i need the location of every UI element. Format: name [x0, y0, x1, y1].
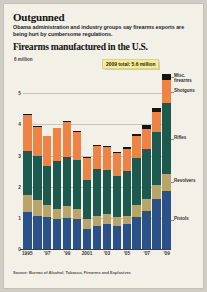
callout-2009-total: 2009 total: 5.6 million	[102, 59, 159, 69]
legend-label-revolvers: Revolvers	[174, 178, 196, 183]
bar-segment-pistols-1998	[53, 219, 62, 249]
bar-segment-revolvers-2001	[83, 219, 92, 229]
bar-segment-rifles-2000	[73, 160, 82, 209]
bar-segment-revolvers-1996	[33, 200, 42, 216]
bar-segment-shotguns-2001	[83, 158, 92, 179]
legend-tick-rifles	[171, 139, 175, 140]
bar-segment-pistols-2000	[73, 219, 82, 249]
bar-segment-shotguns-1997	[43, 136, 52, 166]
bar-segment-shotguns-2006	[132, 136, 141, 158]
x-tick-label-2009: '09	[163, 251, 169, 256]
legend-tick-shotguns	[171, 92, 175, 93]
bar-segment-rifles-2002	[93, 169, 102, 216]
bar-segment-rifles-1998	[53, 161, 62, 209]
bar-segment-pistols-1995	[23, 212, 32, 249]
x-axis-baseline	[20, 249, 171, 250]
bar-segment-revolvers-2008	[152, 185, 161, 198]
bar-segment-shotguns-2004	[113, 153, 122, 176]
x-tick-label-2001: 2001	[82, 251, 93, 256]
bar-2005	[123, 147, 132, 249]
x-tick-label-2003: '03	[104, 251, 110, 256]
bar-segment-pistols-2004	[113, 226, 122, 249]
legend-label-rifles: Rifles	[174, 135, 186, 140]
bar-2006	[132, 134, 141, 249]
bar-segment-pistols-2003	[103, 224, 112, 249]
bar-2004	[113, 152, 122, 249]
infographic-card: Outgunned Obama administration and indus…	[4, 4, 203, 288]
legend-tick-pistols	[171, 220, 175, 221]
bar-segment-rifles-1995	[23, 151, 32, 195]
bar-segment-rifles-2006	[132, 158, 141, 205]
bar-1999	[63, 121, 72, 249]
bar-segment-shotguns-1998	[53, 128, 62, 160]
y-tick-label-2: 2	[18, 184, 21, 189]
x-tick-label-1999: '99	[64, 251, 70, 256]
bar-segment-shotguns-2008	[152, 112, 161, 132]
bar-segment-pistols-1999	[63, 218, 72, 249]
bar-segment-revolvers-1999	[63, 206, 72, 218]
bar-segment-shotguns-1996	[33, 127, 42, 156]
bar-segment-revolvers-2000	[73, 209, 82, 219]
bar-segment-revolvers-1995	[23, 195, 32, 212]
legend-label-misc-firearms: Misc. firearms	[174, 73, 192, 83]
bar-segment-revolvers-2004	[113, 217, 122, 226]
bar-2001	[83, 157, 92, 249]
bar-segment-shotguns-1995	[23, 115, 32, 151]
bar-series-group	[23, 62, 171, 249]
bar-2009	[162, 74, 171, 249]
bar-segment-revolvers-2005	[123, 216, 132, 224]
bar-segment-pistols-2007	[142, 211, 151, 249]
source-note: Source: Bureau of Alcohol, Tobacco, Fire…	[13, 270, 131, 275]
bar-2000	[73, 131, 82, 249]
bar-segment-rifles-2003	[103, 170, 112, 215]
chart-plot-area: 543210	[23, 62, 171, 249]
bar-segment-shotguns-2005	[123, 149, 132, 171]
bar-1998	[53, 128, 62, 249]
bar-segment-rifles-1999	[63, 157, 72, 206]
bar-segment-shotguns-1999	[63, 122, 72, 158]
bar-segment-revolvers-1997	[43, 205, 52, 217]
bar-segment-rifles-2001	[83, 180, 92, 220]
bar-segment-pistols-1997	[43, 217, 52, 249]
bar-2003	[103, 146, 112, 249]
y-tick-label-5: 5	[18, 91, 21, 96]
bar-1997	[43, 136, 52, 249]
article-deck: Obama administration and industry groups…	[13, 24, 197, 37]
x-axis-labels: 1995'97'992001'03'05'07'09	[23, 251, 171, 259]
bar-2008	[152, 108, 161, 249]
x-tick-label-1997: '97	[44, 251, 50, 256]
bar-segment-rifles-2007	[142, 149, 151, 199]
x-tick-label-2005: '05	[124, 251, 130, 256]
y-tick-label-4: 4	[18, 122, 21, 127]
bar-segment-shotguns-2002	[93, 146, 102, 169]
legend-label-pistols: Pistols	[174, 216, 189, 221]
legend-tick-revolvers	[171, 182, 175, 183]
bar-segment-pistols-2005	[123, 224, 132, 249]
bar-segment-rifles-1997	[43, 166, 52, 205]
bar-segment-rifles-2004	[113, 176, 122, 217]
bar-2007	[142, 125, 151, 249]
legend-tick-misc-firearms	[171, 77, 175, 78]
y-tick-label-3: 3	[18, 153, 21, 158]
bar-1996	[33, 126, 42, 249]
bar-segment-pistols-2002	[93, 226, 102, 249]
bar-segment-pistols-2001	[83, 229, 92, 249]
bar-1995	[23, 114, 32, 249]
bar-segment-rifles-1996	[33, 156, 42, 200]
bar-segment-rifles-2008	[152, 132, 161, 186]
bar-segment-revolvers-2006	[132, 205, 141, 217]
bar-segment-revolvers-2003	[103, 214, 112, 224]
bar-segment-pistols-2008	[152, 199, 161, 249]
bar-segment-shotguns-2003	[103, 147, 112, 170]
page-title: Outgunned	[13, 11, 64, 23]
bar-segment-pistols-1996	[33, 216, 42, 249]
bar-segment-revolvers-2007	[142, 199, 151, 211]
bar-segment-shotguns-2000	[73, 132, 82, 160]
x-tick-label-2007: '07	[144, 251, 150, 256]
bar-segment-revolvers-2002	[93, 216, 102, 226]
chart-title: Firearms manufactured in the U.S.	[13, 41, 148, 52]
legend-label-shotguns: Shotguns	[174, 88, 195, 93]
bar-segment-pistols-2006	[132, 217, 141, 249]
bar-segment-revolvers-1998	[53, 209, 62, 219]
x-tick-label-1995: 1995	[22, 251, 33, 256]
